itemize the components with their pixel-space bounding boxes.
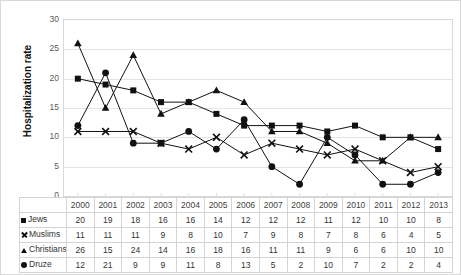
- table-cell: 19: [94, 213, 122, 228]
- table-cell: 12: [67, 258, 95, 273]
- table-cell: 11: [287, 243, 315, 258]
- table-cell: 16: [177, 213, 205, 228]
- data-point-triangle: [129, 51, 137, 58]
- table-row: Christians2615241416181611119661010: [20, 243, 453, 258]
- legend-label: Jews: [28, 215, 47, 225]
- series-layer: [64, 20, 452, 196]
- table-cell: 15: [94, 243, 122, 258]
- table-col-header-2010: 2010: [342, 198, 370, 213]
- table-col-header-2004: 2004: [177, 198, 205, 213]
- table-cell: 11: [94, 228, 122, 243]
- table-col-header-2013: 2013: [425, 198, 453, 213]
- data-point-square: [103, 82, 109, 88]
- table-cell: 13: [232, 258, 260, 273]
- table-cell: 12: [342, 213, 370, 228]
- table-cell: 9: [149, 258, 177, 273]
- data-point-triangle: [102, 104, 110, 111]
- series-christians: [74, 39, 442, 163]
- table-row-header-jews: Jews: [20, 213, 67, 228]
- y-axis-tick-label: 30: [33, 15, 59, 23]
- table-col-header-2001: 2001: [94, 198, 122, 213]
- table-header-row: 2000200120022003200420052006200720082009…: [20, 198, 453, 213]
- table-cell: 9: [259, 228, 287, 243]
- y-axis-tick-label: 5: [33, 162, 59, 170]
- data-point-circle: [130, 140, 137, 147]
- series-jews: [75, 76, 441, 152]
- data-point-square: [435, 146, 441, 152]
- table-cell: 5: [259, 258, 287, 273]
- data-point-circle: [435, 169, 442, 176]
- table-cell: 6: [370, 228, 398, 243]
- table-row: Muslims111111981079878645: [20, 228, 453, 243]
- table-cell: 9: [122, 258, 150, 273]
- table-col-header-2007: 2007: [259, 198, 287, 213]
- table-cell: 18: [122, 213, 150, 228]
- table-cell: 16: [232, 243, 260, 258]
- table-row: Jews201918161614121212111210108: [20, 213, 453, 228]
- data-point-triangle: [74, 39, 82, 46]
- legend-label: Druze: [29, 260, 52, 270]
- table-cell: 14: [149, 243, 177, 258]
- table-row-header-muslims: Muslims: [20, 228, 67, 243]
- table-cell: 10: [425, 243, 453, 258]
- table-cell: 12: [259, 213, 287, 228]
- table-body: Jews201918161614121212111210108Muslims11…: [20, 213, 453, 273]
- chart-figure: Hospitalization rate 051015202530 200020…: [0, 0, 461, 275]
- table-col-header-2003: 2003: [149, 198, 177, 213]
- data-point-circle: [268, 163, 275, 170]
- legend-label: Christians: [29, 245, 67, 255]
- data-point-circle: [324, 134, 331, 141]
- table-row-header-druze: Druze: [20, 258, 67, 273]
- table-cell: 8: [425, 213, 453, 228]
- table-cell: 8: [287, 228, 315, 243]
- y-axis-tick-label: 20: [33, 74, 59, 82]
- legend-marker-circle-icon: [21, 262, 27, 268]
- table-cell: 20: [67, 213, 95, 228]
- table-cell: 8: [204, 258, 232, 273]
- table-cell: 7: [342, 258, 370, 273]
- table-corner-cell: [20, 198, 67, 213]
- table-cell: 9: [315, 243, 343, 258]
- table-cell: 4: [425, 258, 453, 273]
- data-point-circle: [379, 181, 386, 188]
- y-axis-tick-label: 15: [33, 103, 59, 111]
- table-row-header-christians: Christians: [20, 243, 67, 258]
- data-point-square: [130, 87, 136, 93]
- table-col-header-2005: 2005: [204, 198, 232, 213]
- table-cell: 4: [397, 228, 425, 243]
- table-cell: 16: [177, 243, 205, 258]
- data-point-circle: [296, 181, 303, 188]
- table-cell: 16: [149, 213, 177, 228]
- table-cell: 21: [94, 258, 122, 273]
- legend-marker-triangle-icon: [21, 248, 27, 253]
- table-cell: 2: [287, 258, 315, 273]
- table-col-header-2002: 2002: [122, 198, 150, 213]
- data-point-x: [241, 152, 248, 159]
- table-cell: 10: [315, 258, 343, 273]
- y-axis-tick-label: 25: [33, 44, 59, 52]
- table-cell: 6: [370, 243, 398, 258]
- plot-area: [63, 19, 453, 197]
- table-cell: 12: [287, 213, 315, 228]
- data-point-square: [324, 128, 330, 134]
- table-col-header-2008: 2008: [287, 198, 315, 213]
- table-cell: 24: [122, 243, 150, 258]
- table-cell: 12: [232, 213, 260, 228]
- data-point-square: [352, 123, 358, 129]
- table-cell: 2: [370, 258, 398, 273]
- table-cell: 26: [67, 243, 95, 258]
- table-cell: 8: [177, 228, 205, 243]
- table-cell: 18: [204, 243, 232, 258]
- data-point-circle: [407, 181, 414, 188]
- data-point-square: [213, 111, 219, 117]
- table-cell: 11: [259, 243, 287, 258]
- table-col-header-2006: 2006: [232, 198, 260, 213]
- data-point-circle: [352, 152, 359, 159]
- table-cell: 11: [67, 228, 95, 243]
- table-cell: 9: [149, 228, 177, 243]
- chart-data-table: 2000200120022003200420052006200720082009…: [19, 197, 453, 273]
- table-col-header-2012: 2012: [397, 198, 425, 213]
- data-point-circle: [213, 146, 220, 153]
- data-point-square: [158, 99, 164, 105]
- table-cell: 11: [177, 258, 205, 273]
